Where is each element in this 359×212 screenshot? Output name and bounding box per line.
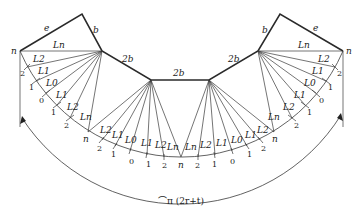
line-label: L1 [55,90,68,100]
tick-label: 1 [111,150,116,159]
edge-label-left-b: b [93,25,99,35]
line-label: L2 [32,54,45,64]
line-label: L2 [317,54,330,64]
diagram-canvas: e b 2b 2b 2b b e n n Ln L2 L1 L0 L1 L2 L… [0,0,359,212]
vertex-label-left-n: n [11,46,17,56]
tick-label: n [272,134,278,144]
edge-label-left-2b: 2b [121,54,134,64]
line-label: Ln [166,142,179,152]
line-label: L1 [140,138,153,148]
line-label: Ln [267,112,280,122]
vertex-label-right-n: n [346,46,352,56]
line-label: L0 [303,78,316,88]
line-label: Ln [52,40,65,50]
line-label: Ln [297,40,310,50]
tick-label: 2 [97,144,102,153]
tick-label: 2 [162,161,167,170]
line-label: L2 [66,102,79,112]
edge-label-right-e: e [313,23,318,33]
tick-label: 0 [230,157,235,166]
tick-marks [24,64,338,160]
tick-label: 2 [64,121,69,130]
line-label: L1 [293,90,306,100]
tick-label: 1 [307,108,312,117]
tick-label: 1 [328,83,333,92]
tick-label: 2 [294,121,299,130]
line-label: L1 [111,130,124,140]
dimension-label: ⌒π (2r+t) [158,196,204,206]
line-label: L2 [99,125,112,135]
line-label: Ln [79,112,92,122]
line-label: L1 [37,66,50,76]
line-label: L0 [45,78,58,88]
edge-label-center-2b: 2b [172,68,185,78]
tick-label: 2 [20,69,25,78]
line-label: L1 [311,66,324,76]
edge-label-left-e: e [44,23,49,33]
line-label: L0 [124,135,137,145]
line-label: Ln [184,142,197,152]
tick-label: 0 [39,96,44,105]
line-label: L1 [244,130,257,140]
tick-label: n [83,134,89,144]
tick-label: n [178,160,184,170]
tick-label: 2 [195,161,200,170]
line-label: L1 [215,138,228,148]
tick-label: 1 [212,160,217,169]
tick-label: 0 [319,96,324,105]
tick-label: 2 [337,69,342,78]
tick-label: 1 [51,108,56,117]
fan-development-diagram: e b 2b 2b 2b b e n n Ln L2 L1 L0 L1 L2 L… [0,0,359,212]
line-label: L0 [230,135,243,145]
tick-label: 2 [261,144,266,153]
tick-label: 0 [129,157,134,166]
edge-label-right-b: b [262,25,268,35]
tick-label: 1 [29,83,34,92]
line-label: L2 [154,140,167,150]
tick-label: 1 [247,150,252,159]
line-label: L2 [282,102,295,112]
tick-label: 1 [146,160,151,169]
line-label: L2 [199,140,212,150]
edge-label-right-2b: 2b [227,54,240,64]
line-label: L2 [256,125,269,135]
